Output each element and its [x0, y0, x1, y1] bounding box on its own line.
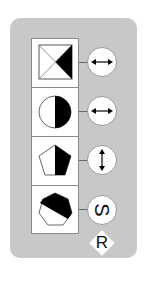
half-circle-icon — [32, 88, 78, 137]
connector-line — [79, 160, 87, 161]
shapes-column — [31, 38, 79, 234]
vertical-arrow-control[interactable] — [87, 145, 117, 175]
r-label: R — [89, 230, 115, 256]
row-3-shape-cell — [32, 137, 78, 186]
rotated-s-label: S — [88, 196, 116, 224]
arrow-up-down-icon — [88, 146, 116, 174]
heptagon-icon — [32, 186, 78, 235]
r-diamond-badge[interactable]: R — [89, 230, 115, 256]
connector-line — [79, 62, 87, 63]
connector-line — [79, 111, 87, 112]
square-x-icon — [32, 39, 78, 88]
row-1-shape-cell — [32, 39, 78, 88]
row-4-shape-cell — [32, 186, 78, 235]
horizontal-arrow-control[interactable] — [87, 47, 117, 77]
connector-line — [79, 209, 87, 210]
pentagon-icon — [32, 137, 78, 186]
arrow-left-right-icon — [88, 48, 116, 76]
horizontal-arrow-control[interactable] — [87, 96, 117, 126]
s-letter-control[interactable]: S — [87, 195, 117, 225]
row-2-shape-cell — [32, 88, 78, 137]
arrow-left-right-icon — [88, 97, 116, 125]
